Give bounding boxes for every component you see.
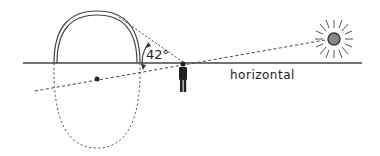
observer-icon: [179, 61, 187, 92]
rainbow-cone-circle: [54, 63, 140, 148]
rainbow-diagram: 42° horizontal: [0, 0, 380, 156]
diagram-canvas: [0, 0, 380, 156]
angle-label: 42°: [146, 47, 169, 62]
sun-icon: [315, 20, 353, 58]
horizontal-label: horizontal: [230, 68, 295, 82]
rainbow-outer-arc: [54, 11, 140, 63]
angle-arrowhead-lower: [141, 64, 146, 70]
rainbow-inner-arc: [57, 15, 137, 63]
